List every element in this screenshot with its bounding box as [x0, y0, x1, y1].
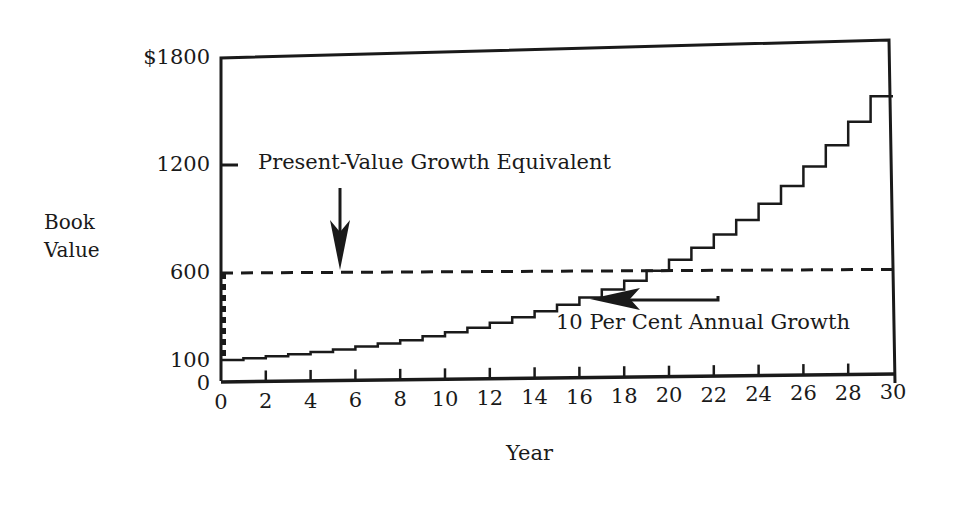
y-axis-label: Book Value [44, 208, 100, 264]
x-tick-label: 28 [828, 383, 868, 404]
x-tick-label: 4 [291, 391, 331, 412]
annotation-present-value: Present-Value Growth Equivalent [258, 152, 611, 173]
x-tick-label: 2 [246, 391, 286, 412]
y-tick-label: 0 [140, 373, 210, 394]
y-axis-label-line1: Book [44, 208, 100, 236]
arrow-left-icon [590, 288, 718, 310]
x-tick-label: 30 [873, 382, 913, 403]
x-tick-label: 8 [380, 389, 420, 410]
x-tick-label: 14 [515, 387, 555, 408]
x-tick-label: 0 [201, 392, 241, 413]
x-tick-label: 12 [470, 388, 510, 409]
x-tick-label: 18 [604, 386, 644, 407]
x-axis-label: Year [506, 443, 553, 464]
annotation-arrows [330, 188, 718, 310]
x-tick-label: 6 [335, 390, 375, 411]
x-tick-label: 22 [694, 385, 734, 406]
x-tick-label: 10 [425, 389, 465, 410]
x-tick-label: 26 [783, 383, 823, 404]
y-tick-label: 1200 [140, 154, 210, 175]
chart-canvas [0, 0, 963, 506]
annotation-annual-growth: 10 Per Cent Annual Growth [556, 312, 850, 333]
x-tick-label: 24 [739, 384, 779, 405]
x-tick-label: 20 [649, 385, 689, 406]
arrow-down-icon [330, 188, 350, 270]
y-axis-label-line2: Value [44, 236, 100, 264]
x-tick-label: 16 [559, 387, 599, 408]
y-tick-label: 100 [140, 350, 210, 371]
y-tick-label: 600 [140, 262, 210, 283]
y-tick-label: $1800 [140, 47, 210, 68]
